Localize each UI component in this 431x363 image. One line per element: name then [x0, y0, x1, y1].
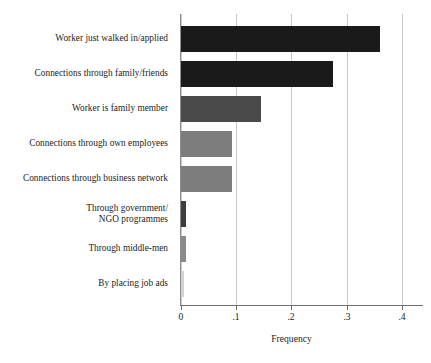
- category-label-1-line1: Connections through family/friends: [35, 68, 168, 78]
- bar-2: [181, 96, 261, 122]
- category-label-5-line1: Through government/: [86, 203, 168, 214]
- gridline-1: [236, 14, 237, 305]
- category-label-3-line1: Connections through own employees: [29, 138, 168, 148]
- x-axis-title: Frequency: [181, 333, 402, 344]
- tick-label-1: .1: [216, 311, 256, 322]
- category-label-2-line1: Worker is family member: [72, 103, 168, 113]
- plot-area: [181, 14, 402, 305]
- tick-mark-3: [347, 306, 348, 310]
- category-label-2: Worker is family member: [72, 103, 168, 114]
- bar-7: [181, 271, 184, 297]
- gridline-3: [347, 14, 348, 305]
- category-label-5: Through government/ NGO programmes: [86, 203, 168, 224]
- category-label-7-line1: By placing job ads: [98, 278, 168, 288]
- bar-5: [181, 201, 186, 227]
- x-axis-line: [180, 305, 423, 306]
- bar-chart-figure: Worker just walked in/applied Connection…: [0, 0, 431, 363]
- category-label-column: Worker just walked in/applied Connection…: [0, 0, 174, 305]
- bar-4: [181, 166, 232, 192]
- category-label-1: Connections through family/friends: [35, 68, 168, 79]
- tick-mark-0: [181, 306, 182, 310]
- gridline-4: [402, 14, 403, 305]
- tick-label-2: .2: [271, 311, 311, 322]
- category-label-0: Worker just walked in/applied: [55, 33, 168, 44]
- bar-1: [181, 61, 333, 87]
- tick-label-4: .4: [382, 311, 422, 322]
- gridline-2: [291, 14, 292, 305]
- category-label-5-line2: NGO programmes: [86, 214, 168, 225]
- category-label-3: Connections through own employees: [29, 138, 168, 149]
- bar-6: [181, 236, 186, 262]
- bar-0: [181, 26, 380, 52]
- category-label-7: By placing job ads: [98, 278, 168, 289]
- category-label-0-line1: Worker just walked in/applied: [55, 33, 168, 43]
- bar-3: [181, 131, 232, 157]
- tick-label-0: 0: [161, 311, 201, 322]
- category-label-4-line1: Connections through business network: [23, 173, 168, 183]
- category-label-4: Connections through business network: [23, 173, 168, 184]
- y-axis-line: [180, 14, 181, 306]
- category-label-6: Through middle-men: [88, 243, 168, 254]
- tick-mark-1: [236, 306, 237, 310]
- tick-label-3: .3: [327, 311, 367, 322]
- category-label-6-line1: Through middle-men: [88, 243, 168, 253]
- tick-mark-2: [291, 306, 292, 310]
- tick-mark-4: [402, 306, 403, 310]
